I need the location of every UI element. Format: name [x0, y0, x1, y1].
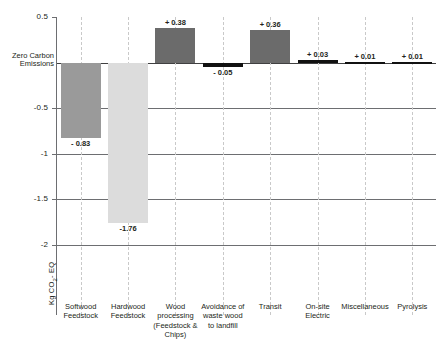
bar-5[interactable]: [298, 60, 338, 63]
y-tick-label--1: -1: [0, 149, 48, 158]
zero-carbon-emissions-label: Zero CarbonEmissions: [0, 52, 54, 69]
gridline-neg2: [57, 245, 436, 246]
bar-value-label-4: + 0.36: [240, 20, 300, 29]
bar-7[interactable]: [392, 62, 432, 64]
category-label-line: waste wood: [199, 311, 246, 320]
category-label-7: Pyrolysis: [389, 302, 436, 311]
category-label-line: Avoidance of: [199, 302, 246, 311]
zero-label-line: Emissions: [0, 60, 54, 69]
bar-6[interactable]: [345, 62, 385, 64]
y-tick-label--2: -2: [0, 240, 48, 249]
bar-value-label-1: -1.76: [98, 224, 158, 233]
category-label-line: Wood: [152, 302, 199, 311]
category-label-line: Chips): [152, 330, 199, 339]
category-label-line: Softwood: [57, 302, 104, 311]
category-label-1: HardwoodFeedstock: [104, 302, 151, 321]
bar-3[interactable]: [203, 63, 243, 68]
category-label-5: On-siteElectric: [294, 302, 341, 321]
category-label-line: (Feedstock &: [152, 321, 199, 330]
bar-0[interactable]: [61, 63, 101, 139]
bar-value-label-3: - 0.05: [193, 68, 253, 77]
category-label-line: Hardwood: [104, 302, 151, 311]
bar-value-label-0: - 0.83: [51, 139, 111, 148]
category-label-2: Woodprocessing(Feedstock &Chips): [152, 302, 199, 340]
category-label-line: Transit: [247, 302, 294, 311]
category-label-line: Feedstock: [57, 311, 104, 320]
category-label-6: Miscellaneous: [341, 302, 388, 311]
category-label-line: processing: [152, 311, 199, 320]
bar-1[interactable]: [108, 63, 148, 224]
gridline-0p5: [57, 17, 436, 18]
category-label-line: On-site: [294, 302, 341, 311]
y-tick-label-0.5: 0.5: [0, 12, 48, 21]
bar-value-label-2: + 0.38: [145, 18, 205, 27]
category-label-line: Feedstock: [104, 311, 151, 320]
bar-4[interactable]: [250, 30, 290, 63]
category-label-line: to landfill: [199, 321, 246, 330]
category-label-line: Electric: [294, 311, 341, 320]
bar-value-label-7: + 0.01: [382, 52, 436, 61]
category-label-4: Transit: [247, 302, 294, 311]
category-label-line: Pyrolysis: [389, 302, 436, 311]
carbon-emissions-bar-chart: Kg CO2- EQ Zero CarbonEmissions 0.5-0.5-…: [0, 0, 436, 358]
category-label-0: SoftwoodFeedstock: [57, 302, 104, 321]
category-label-3: Avoidance ofwaste woodto landfill: [199, 302, 246, 330]
y-tick-label--1.5: -1.5: [0, 194, 48, 203]
y-tick-label--0.5: -0.5: [0, 103, 48, 112]
category-label-line: Miscellaneous: [341, 302, 388, 311]
bar-2[interactable]: [155, 28, 195, 63]
y-axis-title: Kg CO2- EQ: [47, 262, 58, 305]
